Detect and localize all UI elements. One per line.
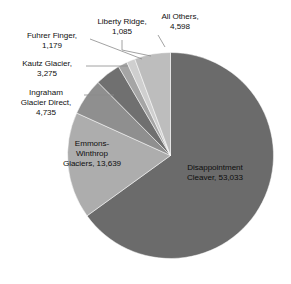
leader-line-all-others: [158, 35, 165, 47]
slice-label-all-others: All Others, 4,598: [152, 12, 208, 32]
pie-chart: Fuhrer Finger, 1,179 Liberty Ridge, 1,08…: [0, 0, 291, 284]
slice-label-emmons-winthrop-glaciers: Emmons- Winthrop Glaciers, 13,639: [54, 139, 130, 170]
slice-label-liberty-ridge: Liberty Ridge, 1,085: [92, 17, 152, 37]
slice-label-kautz-glacier: Kautz Glacier, 3,275: [8, 59, 86, 79]
leader-line-fuhrer-finger: [90, 39, 142, 59]
leader-line-liberty-ridge: [122, 40, 151, 56]
slice-label-ingraham-glacier-direct: Ingraham Glacier Direct, 4,735: [6, 88, 86, 119]
slice-label-disappointment-cleaver: Disappointment Cleaver, 53,033: [172, 163, 258, 183]
slice-label-fuhrer-finger: Fuhrer Finger, 1,179: [14, 31, 90, 51]
